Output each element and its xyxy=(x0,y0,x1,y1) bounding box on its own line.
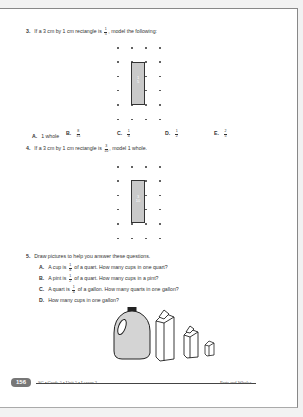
cup-carton-icon xyxy=(205,341,214,356)
footer-lesson-title: Parts and Wholes xyxy=(220,380,251,385)
containers-illustration xyxy=(112,307,262,367)
denominator: 2 xyxy=(69,280,71,284)
denominator: 5 xyxy=(224,135,226,139)
grid-dot xyxy=(117,180,119,182)
grid-dot xyxy=(117,90,119,92)
question-number: 4. xyxy=(26,145,30,151)
item-text: of a quart. How many cups in one quart? xyxy=(74,264,167,270)
question-number: 3. xyxy=(26,28,30,34)
grid-dot xyxy=(159,223,161,225)
denominator: 2 xyxy=(176,135,178,139)
item-text: of a gallon. How many quarts in one gall… xyxy=(78,286,179,292)
grid-dot xyxy=(159,47,161,49)
question-number: 5. xyxy=(26,253,30,259)
denominator: 4 xyxy=(73,291,75,295)
choice-c: C.14 xyxy=(117,130,131,138)
grid-dot xyxy=(117,238,119,240)
choice-b: B.815 xyxy=(66,130,81,138)
choice-e: E.25 xyxy=(214,130,228,138)
choice-letter: C. xyxy=(117,130,122,136)
grid-dot xyxy=(145,47,147,49)
item-text: How many cups in one gallon? xyxy=(48,297,119,303)
grid-dot xyxy=(145,90,147,92)
pint-carton-icon xyxy=(184,326,198,358)
grid-dot xyxy=(117,223,119,225)
grid-dot xyxy=(117,166,119,168)
question-5c: C.A quart is 14 of a gallon. How many qu… xyxy=(39,286,179,294)
fraction: 14 xyxy=(69,264,72,272)
denominator: 15 xyxy=(76,135,80,139)
grid-dot xyxy=(159,104,161,106)
fraction: 12 xyxy=(69,275,72,283)
fraction: 25 xyxy=(224,130,227,138)
grid-dot xyxy=(145,76,147,78)
choice-value: 1 whole xyxy=(41,133,59,139)
denominator: 5 xyxy=(105,33,107,37)
choice-letter: E. xyxy=(214,130,219,136)
grid-dot xyxy=(145,180,147,182)
question-5: 5.Draw pictures to help you answer these… xyxy=(26,253,150,259)
grid-dot xyxy=(131,238,133,240)
question-4: 4.If a 3 cm by 1 cm rectangle is 310, mo… xyxy=(26,145,147,153)
grid-dot xyxy=(117,195,119,197)
choice-letter: B. xyxy=(66,130,71,136)
rectangle-label: 3 10 xyxy=(131,195,145,203)
choice-letter: A. xyxy=(32,133,37,139)
grid-dot xyxy=(159,166,161,168)
fraction: 310 xyxy=(104,145,108,153)
page-number-badge: 156 xyxy=(11,378,31,387)
choice-letter: D. xyxy=(165,130,170,136)
grid-dot xyxy=(145,223,147,225)
worksheet-page: 3.If a 3 cm by 1 cm rectangle is 15, mod… xyxy=(0,8,298,408)
grid-dot xyxy=(145,238,147,240)
denominator: 4 xyxy=(69,269,71,273)
grid-dot xyxy=(117,61,119,63)
grid-dot xyxy=(131,223,133,225)
question-text: Draw pictures to help you answer these q… xyxy=(34,253,150,259)
fraction: 15 xyxy=(104,28,107,36)
question-text: If a 3 cm by 1 cm rectangle is xyxy=(34,145,101,151)
grid-dot xyxy=(117,104,119,106)
grid-dot xyxy=(117,47,119,49)
grid-dot xyxy=(159,90,161,92)
denominator: 5 xyxy=(131,80,145,84)
grid-dot xyxy=(145,104,147,106)
grid-dot xyxy=(159,238,161,240)
grid-dot xyxy=(131,119,133,121)
fraction: 815 xyxy=(76,130,80,138)
grid-dot xyxy=(159,119,161,121)
choice-a: A.1 whole xyxy=(32,133,59,139)
question-text: , model 1 whole. xyxy=(109,145,147,151)
item-text: of a quart. How many cups in a pint? xyxy=(74,275,158,281)
item-letter: C. xyxy=(39,286,44,292)
question-5a: A.A cup is 14 of a quart. How many cups … xyxy=(39,264,168,272)
grid-dot xyxy=(117,119,119,121)
question-3: 3.If a 3 cm by 1 cm rectangle is 15, mod… xyxy=(26,28,157,36)
grid-dot xyxy=(145,209,147,211)
rectangle-label: 1 5 xyxy=(131,76,145,84)
question-5b: B.A pint is 12 of a quart. How many cups… xyxy=(39,275,158,283)
item-letter: D. xyxy=(39,297,44,303)
question-text: If a 3 cm by 1 cm rectangle is xyxy=(34,28,101,34)
grid-dot xyxy=(159,76,161,78)
denominator: 10 xyxy=(131,199,145,203)
denominator: 10 xyxy=(104,150,108,154)
grid-dot xyxy=(159,209,161,211)
grid-dot xyxy=(159,180,161,182)
item-text: A quart is xyxy=(48,286,70,292)
grid-dot xyxy=(159,61,161,63)
grid-dot xyxy=(159,195,161,197)
quart-carton-icon xyxy=(156,310,174,361)
grid-dot xyxy=(131,166,133,168)
item-text: A cup is xyxy=(48,264,66,270)
gallon-jug-icon xyxy=(114,307,150,359)
grid-dot xyxy=(145,61,147,63)
grid-dot xyxy=(145,166,147,168)
item-letter: B. xyxy=(39,275,44,281)
footer-course-info: SG • Grade 5 • Unit 5 • Lesson 2 xyxy=(38,380,97,385)
item-text: A pint is xyxy=(48,275,66,281)
grid-dot xyxy=(145,195,147,197)
question-5d: D.How many cups in one gallon? xyxy=(39,297,119,303)
denominator: 4 xyxy=(128,135,130,139)
fraction: 12 xyxy=(175,130,178,138)
